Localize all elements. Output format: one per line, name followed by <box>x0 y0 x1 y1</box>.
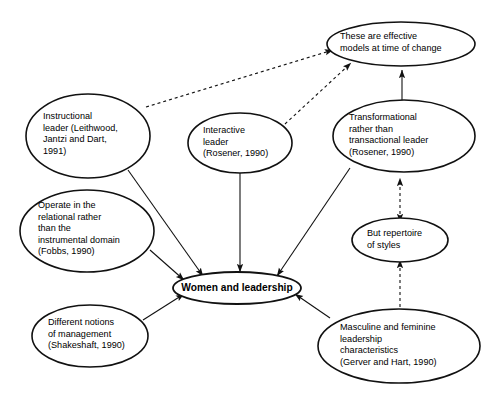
node-relational-domain[interactable] <box>20 190 154 272</box>
edge-masculine-to-women <box>295 294 330 318</box>
concept-map-graphic <box>0 0 492 400</box>
node-different-notions[interactable] <box>32 305 148 367</box>
edge-relational-to-women <box>150 250 184 280</box>
node-interactive-leader[interactable] <box>188 113 292 173</box>
edge-transformational-to-women <box>277 168 350 276</box>
node-instructional-leader[interactable] <box>26 94 150 178</box>
diagram-canvas: These are effective models at time of ch… <box>0 0 492 400</box>
edge-instructional-to-effective <box>146 50 333 107</box>
node-transformational-leader[interactable] <box>333 100 475 172</box>
node-masculine-feminine[interactable] <box>318 309 480 383</box>
edge-interactive-to-effective <box>285 63 351 124</box>
node-effective-models[interactable] <box>327 22 475 66</box>
edge-notions-to-women <box>143 294 184 320</box>
node-women-and-leadership[interactable] <box>173 272 301 304</box>
node-repertoire-of-styles[interactable] <box>352 218 448 262</box>
node-layer <box>20 22 480 383</box>
